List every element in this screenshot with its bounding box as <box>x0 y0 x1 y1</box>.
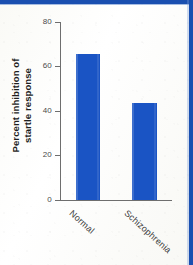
y-axis-title: Percent inhibition of startle response <box>10 31 33 181</box>
x-axis-line <box>60 200 172 201</box>
y-tick-label-60: 60 <box>32 61 52 70</box>
y-tick-0 <box>55 200 60 201</box>
bar-schizophrenia[interactable] <box>132 103 157 200</box>
bar-chart: 80 60 40 20 0 Percent inhibition of star… <box>0 0 193 265</box>
y-tick-80 <box>55 22 60 23</box>
bar-normal[interactable] <box>76 54 100 200</box>
x-tick-label-normal: Normal <box>67 208 96 236</box>
y-axis-title-line-1: Percent inhibition of <box>10 31 22 181</box>
bar-highlight <box>154 103 156 200</box>
y-tick-label-80: 80 <box>32 17 52 26</box>
y-tick-label-20: 20 <box>32 150 52 159</box>
y-tick-label-0: 0 <box>32 195 52 204</box>
y-tick-label-40: 40 <box>32 106 52 115</box>
y-axis-line <box>60 22 61 201</box>
y-tick-60 <box>55 66 60 67</box>
y-tick-40 <box>55 111 60 112</box>
y-axis-title-line-2: startle response <box>21 31 33 181</box>
bar-highlight <box>97 54 99 200</box>
y-tick-20 <box>55 155 60 156</box>
x-tick-label-schizophrenia: Schizophrenia <box>122 208 173 255</box>
